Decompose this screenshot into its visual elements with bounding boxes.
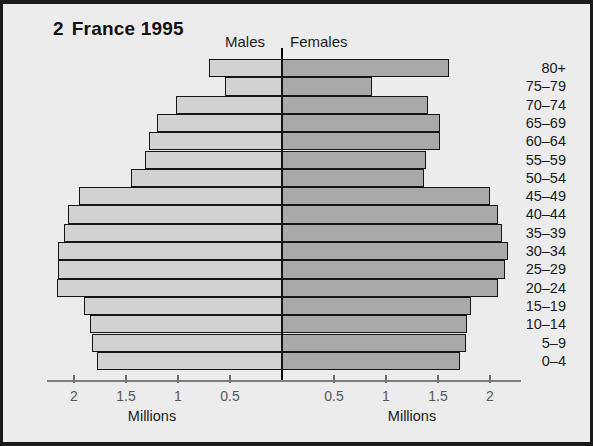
x-tick-left-0.5 bbox=[229, 375, 231, 383]
bar-female-45-49 bbox=[282, 187, 490, 205]
age-label-20-24: 20–24 bbox=[526, 279, 566, 297]
males-column-header: Males bbox=[225, 33, 265, 50]
x-axis-title-males: Millions bbox=[128, 408, 176, 424]
bar-female-60-64 bbox=[282, 132, 440, 150]
age-label-70-74: 70–74 bbox=[526, 96, 566, 114]
figure-title: France 1995 bbox=[72, 18, 184, 39]
x-tick-label-right-0.5: 0.5 bbox=[324, 388, 343, 404]
bar-female-35-39 bbox=[282, 224, 502, 242]
bar-female-10-14 bbox=[282, 315, 467, 333]
age-label-75-79: 75–79 bbox=[526, 77, 566, 95]
bar-male-65-69 bbox=[157, 114, 282, 132]
bar-male-15-19 bbox=[84, 297, 282, 315]
bar-female-15-19 bbox=[282, 297, 471, 315]
age-label-55-59: 55–59 bbox=[526, 151, 566, 169]
bar-female-55-59 bbox=[282, 151, 426, 169]
x-tick-label-left-1.5: 1.5 bbox=[116, 388, 135, 404]
bar-male-45-49 bbox=[79, 187, 282, 205]
age-label-80plus: 80+ bbox=[541, 59, 566, 77]
bar-male-50-54 bbox=[131, 169, 282, 187]
age-label-50-54: 50–54 bbox=[526, 169, 566, 187]
x-axis-line bbox=[47, 380, 521, 382]
bar-male-55-59 bbox=[145, 151, 282, 169]
bar-female-40-44 bbox=[282, 205, 498, 223]
bar-row bbox=[3, 59, 590, 77]
x-tick-label-left-2: 2 bbox=[70, 388, 78, 404]
bar-female-65-69 bbox=[282, 114, 440, 132]
bar-male-10-14 bbox=[90, 315, 282, 333]
bar-male-25-29 bbox=[58, 260, 282, 278]
bar-male-20-24 bbox=[57, 279, 282, 297]
bar-male-80plus bbox=[209, 59, 282, 77]
bar-female-25-29 bbox=[282, 260, 505, 278]
bar-female-20-24 bbox=[282, 279, 498, 297]
page-title: 2France 1995 bbox=[53, 18, 184, 40]
bar-male-0-4 bbox=[97, 352, 282, 370]
bar-row bbox=[3, 279, 590, 297]
bar-row bbox=[3, 242, 590, 260]
age-label-15-19: 15–19 bbox=[526, 297, 566, 315]
bar-row bbox=[3, 132, 590, 150]
x-tick-right-2 bbox=[489, 375, 491, 383]
bar-female-50-54 bbox=[282, 169, 424, 187]
x-tick-label-left-1: 1 bbox=[174, 388, 182, 404]
x-tick-left-2 bbox=[73, 375, 75, 383]
age-label-65-69: 65–69 bbox=[526, 114, 566, 132]
bar-row bbox=[3, 187, 590, 205]
bar-male-5-9 bbox=[92, 334, 282, 352]
females-column-header: Females bbox=[290, 33, 348, 50]
age-label-60-64: 60–64 bbox=[526, 132, 566, 150]
x-axis-title-females: Millions bbox=[388, 408, 436, 424]
bar-row bbox=[3, 352, 590, 370]
figure-number: 2 bbox=[53, 18, 64, 39]
bar-male-75-79 bbox=[225, 77, 282, 95]
age-label-40-44: 40–44 bbox=[526, 205, 566, 223]
bar-row bbox=[3, 315, 590, 333]
bar-row bbox=[3, 77, 590, 95]
bar-row bbox=[3, 297, 590, 315]
age-label-45-49: 45–49 bbox=[526, 187, 566, 205]
age-label-0-4: 0–4 bbox=[542, 352, 566, 370]
bar-row bbox=[3, 114, 590, 132]
x-tick-left-1.5 bbox=[125, 375, 127, 383]
x-tick-label-right-1.5: 1.5 bbox=[428, 388, 447, 404]
x-tick-right-1.5 bbox=[437, 375, 439, 383]
bar-row bbox=[3, 224, 590, 242]
bar-female-30-34 bbox=[282, 242, 508, 260]
bar-row bbox=[3, 260, 590, 278]
bar-female-75-79 bbox=[282, 77, 372, 95]
bar-male-35-39 bbox=[64, 224, 282, 242]
bar-female-0-4 bbox=[282, 352, 460, 370]
age-label-25-29: 25–29 bbox=[526, 260, 566, 278]
age-label-10-14: 10–14 bbox=[526, 315, 566, 333]
age-label-35-39: 35–39 bbox=[526, 224, 566, 242]
age-group-labels: 80+75–7970–7465–6960–6455–5950–5445–4940… bbox=[508, 59, 578, 371]
x-tick-right-1 bbox=[385, 375, 387, 383]
bar-row bbox=[3, 151, 590, 169]
x-tick-label-right-2: 2 bbox=[486, 388, 494, 404]
bars-area bbox=[3, 59, 590, 371]
bar-row bbox=[3, 205, 590, 223]
bar-female-70-74 bbox=[282, 96, 428, 114]
age-label-5-9: 5–9 bbox=[542, 334, 566, 352]
x-tick-right-0.5 bbox=[333, 375, 335, 383]
x-tick-label-left-0.5: 0.5 bbox=[220, 388, 239, 404]
bar-male-60-64 bbox=[149, 132, 282, 150]
bar-row bbox=[3, 334, 590, 352]
bar-male-70-74 bbox=[176, 96, 282, 114]
bar-row bbox=[3, 96, 590, 114]
x-tick-left-1 bbox=[177, 375, 179, 383]
population-pyramid-figure: 2France 1995 Males Females 80+75–7970–74… bbox=[0, 0, 593, 446]
bar-male-40-44 bbox=[68, 205, 282, 223]
bar-row bbox=[3, 169, 590, 187]
bar-female-5-9 bbox=[282, 334, 466, 352]
bar-male-30-34 bbox=[58, 242, 282, 260]
x-tick-label-right-1: 1 bbox=[382, 388, 390, 404]
age-label-30-34: 30–34 bbox=[526, 242, 566, 260]
bar-female-80plus bbox=[282, 59, 449, 77]
